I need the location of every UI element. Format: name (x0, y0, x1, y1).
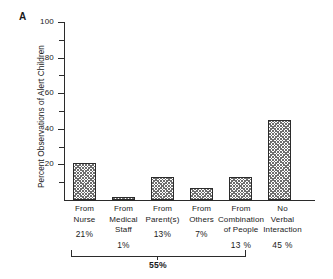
y-tick-70 (59, 75, 64, 76)
category-line: From (192, 204, 211, 213)
y-tick-100 (58, 22, 64, 23)
category-line: Nurse (74, 215, 96, 224)
category-line: Interaction (263, 225, 301, 234)
category-line: From (114, 204, 133, 213)
category-line: From (153, 204, 172, 213)
category-line: Medical (109, 215, 137, 224)
y-axis-line (64, 22, 65, 201)
y-tick-20 (58, 164, 64, 165)
bar-from-medical-staff (112, 197, 135, 200)
category-line: Verbal (271, 215, 294, 224)
bar-from-parents (151, 177, 174, 200)
y-tick-label-20: 20 (14, 159, 54, 168)
category-line: From (75, 204, 94, 213)
y-tick-label-40: 40 (14, 124, 54, 133)
category-line: No (277, 204, 287, 213)
y-tick-40 (58, 129, 64, 130)
y-tick-90 (59, 40, 64, 41)
category-label-no-verbal-interaction: No Verbal Interaction 45 % (254, 204, 311, 250)
bar-no-verbal-interaction (268, 120, 291, 200)
summary-bracket-total: 55% (118, 260, 198, 270)
summary-bracket (71, 250, 246, 257)
category-line: Staff (115, 225, 132, 234)
y-tick-10 (59, 182, 64, 183)
y-tick-label-80: 80 (14, 53, 54, 62)
y-tick-60 (58, 93, 64, 94)
y-axis-title: Percent Observations of Alert Children (37, 29, 46, 204)
bar-from-nurse (73, 163, 96, 200)
y-tick-label-60: 60 (14, 88, 54, 97)
category-line: From (231, 204, 250, 213)
category-line: Parent(s) (146, 215, 180, 224)
bar-from-combination-of-people (229, 177, 252, 200)
category-percent: 45 % (254, 240, 311, 251)
category-percent: 1% (99, 240, 148, 251)
x-axis-line (64, 200, 315, 201)
y-tick-50 (59, 111, 64, 112)
bar-chart-figure: A 100 80 60 40 20 Percent Observations o… (0, 0, 333, 279)
bar-from-others (190, 188, 213, 201)
y-tick-80 (58, 58, 64, 59)
y-tick-30 (59, 147, 64, 148)
y-tick-label-100: 100 (14, 17, 54, 26)
